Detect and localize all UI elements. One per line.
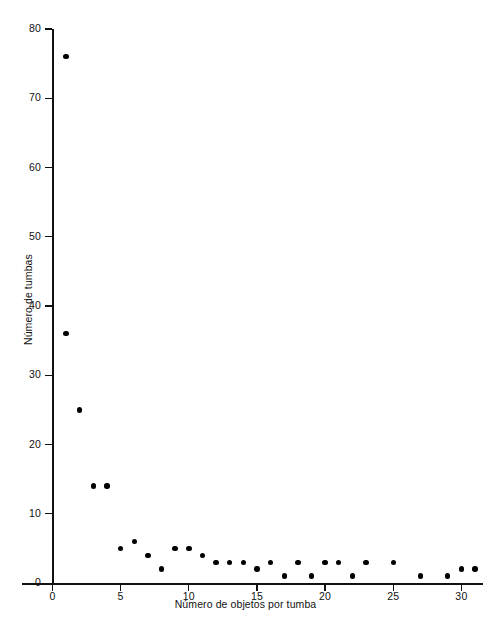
y-axis-line (52, 29, 54, 584)
data-point (91, 483, 96, 488)
data-point (282, 573, 287, 578)
data-point (227, 560, 232, 565)
data-point (350, 573, 355, 578)
y-tick-label: 30 (17, 368, 41, 380)
y-axis-label: Número de tumbas (22, 254, 34, 345)
data-point (309, 573, 314, 578)
y-tick-mark (45, 167, 52, 168)
data-point (241, 560, 246, 565)
y-tick-mark (45, 236, 52, 237)
data-point (268, 560, 273, 565)
data-point (63, 331, 68, 336)
data-point (172, 546, 177, 551)
y-tick-label: 0 (17, 576, 41, 588)
data-point (472, 566, 477, 571)
y-tick-label: 20 (17, 438, 41, 450)
y-tick-mark (45, 375, 52, 376)
data-point (322, 560, 327, 565)
data-point (254, 566, 259, 571)
data-point (77, 407, 82, 412)
y-tick-mark (45, 444, 52, 445)
data-point (459, 566, 464, 571)
y-tick-mark (45, 28, 52, 29)
data-point (159, 566, 164, 571)
data-point (363, 560, 368, 565)
data-point (104, 483, 109, 488)
y-tick-label: 80 (17, 22, 41, 34)
x-axis-label: Número de objetos por tumba (0, 598, 491, 610)
scatter-plot-figure: 01020304050607080 051015202530 Número de… (0, 0, 491, 622)
data-point (118, 546, 123, 551)
y-tick-mark (45, 98, 52, 99)
y-tick-label: 50 (17, 230, 41, 242)
data-point (336, 560, 341, 565)
y-tick-mark (45, 513, 52, 514)
data-point (200, 553, 205, 558)
data-point (63, 54, 68, 59)
y-tick-label: 70 (17, 91, 41, 103)
y-tick-mark (45, 305, 52, 306)
data-point (186, 546, 191, 551)
y-tick-label: 10 (17, 507, 41, 519)
data-point (132, 539, 137, 544)
x-axis-line (22, 583, 483, 585)
data-point (418, 573, 423, 578)
data-point (145, 553, 150, 558)
data-point (391, 560, 396, 565)
data-point (295, 560, 300, 565)
data-point (445, 573, 450, 578)
y-tick-label: 60 (17, 161, 41, 173)
data-point (213, 560, 218, 565)
